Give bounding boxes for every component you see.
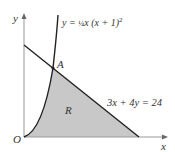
curve-eq-prefix: y =	[62, 17, 78, 28]
curve-eq-exponent: 2	[119, 16, 123, 24]
x-axis-label: x	[161, 141, 166, 152]
region-r-label: R	[65, 105, 72, 116]
curve-equation-label: y = ¼x (x + 1)2	[62, 17, 122, 28]
x-axis-arrow-icon	[162, 135, 168, 140]
y-axis-arrow-icon	[22, 13, 27, 19]
y-axis-label: y	[13, 13, 18, 24]
curve-eq-body: x (x + 1)	[84, 17, 119, 28]
line-equation-label: 3x + 4y = 24	[107, 98, 162, 109]
point-a-marker	[51, 66, 54, 69]
point-a-label: A	[57, 59, 64, 70]
origin-label: O	[13, 134, 21, 145]
